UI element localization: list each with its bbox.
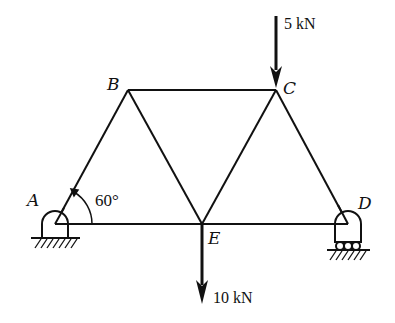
angle-label: 60° xyxy=(95,191,119,210)
member-CD xyxy=(276,90,348,224)
load-label-10kN: 10 kN xyxy=(213,289,253,306)
angle-arc-icon xyxy=(71,189,92,224)
truss-diagram: 60° 5 kN 10 kN A B C D E xyxy=(0,0,395,323)
member-BE xyxy=(128,90,202,224)
load-arrow-5kN-icon xyxy=(270,16,282,88)
node-label-B: B xyxy=(106,74,120,94)
pin-support-icon xyxy=(31,211,80,248)
node-label-C: C xyxy=(283,78,296,98)
load-arrow-10kN-icon xyxy=(196,224,208,304)
node-label-A: A xyxy=(25,190,39,210)
roller-support-icon xyxy=(327,211,370,260)
node-label-D: D xyxy=(357,193,372,213)
load-label-5kN: 5 kN xyxy=(284,15,316,32)
node-label-E: E xyxy=(207,228,221,248)
member-EC xyxy=(202,90,276,224)
